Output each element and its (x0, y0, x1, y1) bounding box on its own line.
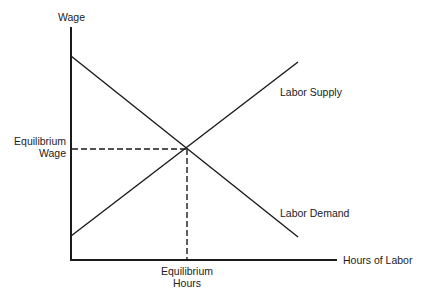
demand-curve-label: Labor Demand (280, 207, 349, 219)
equilibrium-hours-label: Equilibrium Hours (152, 265, 222, 289)
equilibrium-wage-label: Equilibrium Wage (0, 135, 66, 159)
equilibrium-hours-line2: Hours (152, 277, 222, 289)
supply-curve-label: Labor Supply (280, 86, 342, 98)
equilibrium-hours-line1: Equilibrium (152, 265, 222, 277)
equilibrium-wage-line1: Equilibrium (0, 135, 66, 147)
y-axis-label: Wage (58, 11, 85, 23)
equilibrium-wage-line2: Wage (0, 147, 66, 159)
x-axis-label: Hours of Labor (343, 254, 412, 266)
